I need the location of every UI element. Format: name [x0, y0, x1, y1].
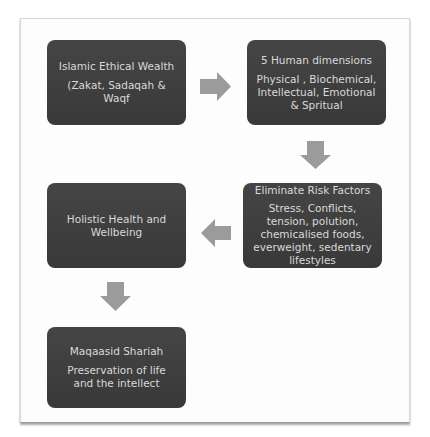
arrow-left-icon [201, 219, 231, 247]
node-title: Eliminate Risk Factors [255, 184, 370, 197]
node-eliminate-risk-factors: Eliminate Risk Factors Stress, Conflicts… [243, 183, 382, 268]
node-title: Maqaasid Shariah [70, 345, 164, 358]
node-holistic-health: Holistic Health and Wellbeing [47, 183, 186, 268]
arrow-right-icon [200, 72, 231, 101]
node-body: (Zakat, Sadaqah & Waqf [53, 79, 180, 105]
node-body: Preservation of life and the intellect [57, 364, 176, 390]
node-maqaasid-shariah: Maqaasid Shariah Preservation of life an… [47, 327, 186, 408]
node-human-dimensions: 5 Human dimensions Physical , Biochemica… [247, 40, 386, 125]
arrow-down-icon [300, 141, 331, 169]
node-body: Physical , Biochemical, Intellectual, Em… [253, 73, 380, 112]
node-islamic-ethical-wealth: Islamic Ethical Wealth (Zakat, Sadaqah &… [47, 40, 186, 125]
node-title: Islamic Ethical Wealth [59, 60, 174, 73]
arrow-down-icon [100, 282, 131, 311]
node-body: Stress, Conflicts, tension, polution, ch… [247, 202, 378, 267]
node-title: Holistic Health and Wellbeing [65, 213, 168, 239]
node-title: 5 Human dimensions [261, 54, 372, 67]
